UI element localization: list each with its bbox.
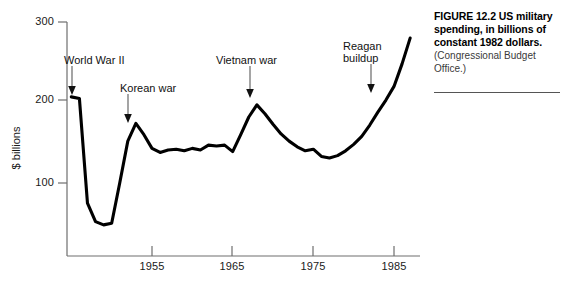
annotation-label-vietnam-war: Vietnam war: [216, 54, 277, 66]
data-series-line: [71, 38, 410, 225]
figure-caption: FIGURE 12.2 US military spending, in bil…: [434, 10, 566, 75]
annotation-arrow-reagan-buildup: [367, 64, 375, 93]
chart-plot-area: 300 200 100 1955 1965 1975 1985 $ billio…: [0, 0, 430, 283]
x-tick-label-1955: 1955: [122, 260, 182, 272]
y-tick-label-300: 300: [18, 15, 54, 27]
x-tick-label-1975: 1975: [283, 260, 343, 272]
annotation-label-korean-war: Korean war: [120, 82, 176, 94]
annotation-label-world-war-ii: World War II: [64, 54, 125, 66]
x-tick-label-1965: 1965: [202, 260, 262, 272]
x-tick-label-1985: 1985: [364, 260, 424, 272]
y-axis-title: $ billions: [10, 99, 80, 113]
annotation-arrow-world-war-ii: [68, 66, 76, 95]
y-tick-label-100: 100: [18, 176, 54, 188]
figure-container: 300 200 100 1955 1965 1975 1985 $ billio…: [0, 0, 581, 283]
annotation-arrow-korean-war: [124, 94, 132, 123]
annotation-label-reagan-buildup-line2: buildup: [343, 52, 378, 64]
caption-divider-rule: [434, 92, 560, 93]
annotation-arrow-vietnam-war: [246, 66, 254, 98]
y-axis-title-text: $ billions: [10, 113, 22, 183]
figure-caption-title: FIGURE 12.2 US military spending, in bil…: [434, 10, 566, 49]
figure-caption-source: (Congressional Budget Office.): [434, 50, 566, 75]
annotation-label-reagan-buildup-line1: Reagan: [343, 40, 382, 52]
